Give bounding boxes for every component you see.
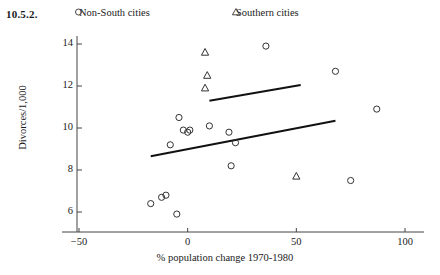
data-point-circle xyxy=(263,43,269,49)
x-tick-label: 100 xyxy=(385,236,425,247)
y-tick-label: 10 xyxy=(59,121,73,132)
data-points xyxy=(148,43,380,217)
y-tick-label: 6 xyxy=(59,205,73,216)
data-point-circle xyxy=(348,177,354,183)
data-point-circle xyxy=(374,106,380,112)
fit-line xyxy=(209,85,300,101)
data-point-circle xyxy=(226,129,232,135)
y-tick-label: 12 xyxy=(59,79,73,90)
data-point-circle xyxy=(167,142,173,148)
axes xyxy=(62,36,424,232)
y-axis-ticks xyxy=(77,44,82,212)
fit-line xyxy=(151,121,336,157)
y-tick-label: 8 xyxy=(59,163,73,174)
data-point-circle xyxy=(332,68,338,74)
data-point-circle xyxy=(228,163,234,169)
data-point-circle xyxy=(148,201,154,207)
data-point-triangle xyxy=(293,172,300,179)
x-tick-label: 0 xyxy=(168,236,208,247)
x-tick-label: 50 xyxy=(276,236,316,247)
data-point-triangle xyxy=(201,49,208,56)
data-point-circle xyxy=(176,114,182,120)
data-point-circle xyxy=(174,211,180,217)
y-tick-label: 14 xyxy=(59,37,73,48)
x-tick-label: −50 xyxy=(59,236,99,247)
data-point-triangle xyxy=(204,72,211,79)
x-axis-ticks xyxy=(79,228,405,232)
data-point-triangle xyxy=(201,84,208,91)
data-point-circle xyxy=(206,123,212,129)
